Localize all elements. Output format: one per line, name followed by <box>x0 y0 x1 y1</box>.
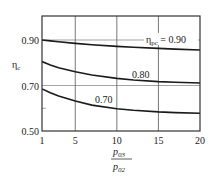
x-tick-label: 15 <box>153 135 163 146</box>
curves <box>42 40 200 113</box>
svg-text:p03: p03 <box>112 146 126 159</box>
svg-text:p02: p02 <box>112 161 126 174</box>
chart: 15101520 0.500.700.90 ηpc = 0.900.800.70… <box>0 0 212 178</box>
curve-line <box>42 89 200 113</box>
y-tick-label: 0.70 <box>22 81 40 92</box>
y-axis-label: ηc <box>12 59 20 72</box>
curve-label-0.80: 0.80 <box>132 69 150 80</box>
x-tick-label: 20 <box>195 135 205 146</box>
x-axis-ticks: 15101520 <box>40 135 206 146</box>
y-tick-label: 0.50 <box>22 126 40 137</box>
curve-line <box>42 62 200 83</box>
y-axis-ticks: 0.500.700.90 <box>22 35 40 137</box>
y-tick-label: 0.90 <box>22 35 40 46</box>
curve-labels: ηpc = 0.900.800.70 <box>95 33 198 105</box>
x-axis-label: p03 p02 <box>111 146 132 174</box>
x-tick-label: 10 <box>112 135 122 146</box>
x-tick-label: 1 <box>40 135 45 146</box>
curve-label-0.70: 0.70 <box>95 94 113 105</box>
x-tick-label: 5 <box>73 135 78 146</box>
